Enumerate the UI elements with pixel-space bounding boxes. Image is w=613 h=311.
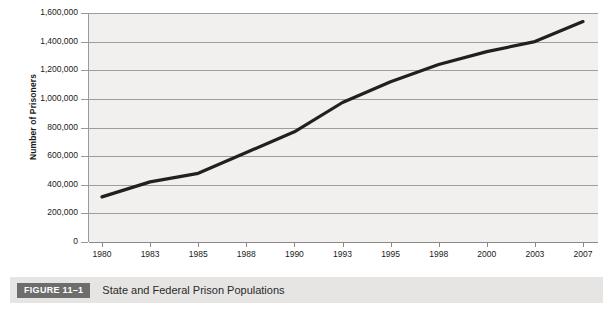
gridline-0 [89,242,598,243]
data-series-line [88,13,597,242]
x-tick-label-1985: 1985 [178,249,218,259]
x-tick-label-1990: 1990 [274,249,314,259]
y-tick-mark [81,13,88,14]
x-tick-label-1980: 1980 [82,249,122,259]
y-tick-mark [81,70,88,71]
y-tick-mark [81,42,88,43]
caption-divider [0,268,613,272]
x-tick-mark-1980 [102,242,103,247]
chart: Number of Prisoners 0200,000400,000600,0… [0,0,613,268]
figure-number-badge: FIGURE 11–1 [17,283,90,298]
y-tick-label: 800,000 [47,122,78,132]
y-tick-label: 600,000 [47,150,78,160]
x-tick-mark-1990 [294,242,295,247]
x-tick-label-1988: 1988 [226,249,266,259]
y-tick-label: 1,000,000 [40,93,78,103]
figure-caption-bar: FIGURE 11–1 State and Federal Prison Pop… [10,277,603,303]
y-tick-mark [81,99,88,100]
x-tick-mark-2007 [583,242,584,247]
y-tick-label: 400,000 [47,179,78,189]
x-tick-mark-2003 [535,242,536,247]
x-tick-label-2007: 2007 [563,249,603,259]
y-tick-mark [81,156,88,157]
x-tick-label-1993: 1993 [323,249,363,259]
x-tick-label-1983: 1983 [130,249,170,259]
x-tick-label-1995: 1995 [371,249,411,259]
y-tick-label: 1,400,000 [40,36,78,46]
x-tick-label-1998: 1998 [419,249,459,259]
x-tick-mark-1985 [198,242,199,247]
series-polyline [102,22,583,197]
x-tick-mark-1995 [391,242,392,247]
x-tick-label-2003: 2003 [515,249,555,259]
x-tick-mark-1993 [343,242,344,247]
y-tick-mark [81,213,88,214]
y-tick-mark [81,128,88,129]
y-tick-mark [81,185,88,186]
x-tick-mark-1998 [439,242,440,247]
figure-container: Number of Prisoners 0200,000400,000600,0… [0,0,613,311]
x-tick-label-2000: 2000 [467,249,507,259]
x-tick-mark-1983 [150,242,151,247]
y-axis-title: Number of Prisoners [28,37,38,197]
y-tick-label: 200,000 [47,207,78,217]
figure-caption-text: State and Federal Prison Populations [102,284,284,296]
y-tick-mark [81,242,88,243]
y-tick-label: 1,600,000 [40,7,78,17]
x-tick-mark-2000 [487,242,488,247]
y-tick-label: 1,200,000 [40,64,78,74]
x-tick-mark-1988 [246,242,247,247]
y-tick-label: 0 [73,236,78,246]
